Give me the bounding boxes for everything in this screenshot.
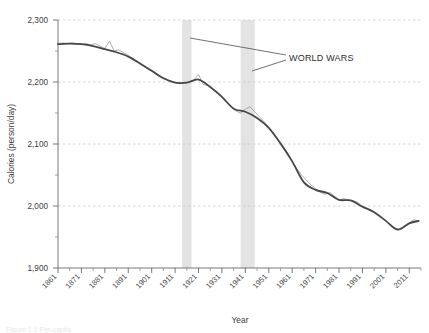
x-tick-label-1901: 1901 <box>134 272 152 290</box>
x-tick-label-1911: 1911 <box>158 272 176 290</box>
y-tick-label-2000: 2,000 <box>28 202 49 211</box>
x-tick-label-1981: 1981 <box>321 272 339 290</box>
x-tick-label-1861: 1861 <box>40 272 58 290</box>
y-axis-tick-labels: 1,9002,0002,1002,2002,300 <box>28 16 49 273</box>
y-axis-title: Calories (person/day) <box>6 104 16 184</box>
leader-line-ww2 <box>252 60 286 71</box>
x-tick-label-1941: 1941 <box>227 272 245 290</box>
x-axis-tick-labels: 1861187118811891190119111921193119411951… <box>40 272 410 290</box>
x-tick-label-1971: 1971 <box>298 272 316 290</box>
x-tick-label-2011: 2011 <box>392 272 410 290</box>
world-wars-annotation-label: WORLD WARS <box>289 53 354 63</box>
x-axis-title: Year <box>232 315 249 325</box>
x-tick-label-1881: 1881 <box>87 272 105 290</box>
series-line-smoothed-trend <box>58 44 419 230</box>
x-tick-label-1931: 1931 <box>204 272 222 290</box>
x-tick-label-2001: 2001 <box>368 272 386 290</box>
y-tick-label-2300: 2,300 <box>28 16 49 25</box>
x-tick-label-1891: 1891 <box>110 272 128 290</box>
world-wars-leader-lines <box>190 38 286 71</box>
y-tick-label-2100: 2,100 <box>28 140 49 149</box>
y-axis-major-ticks <box>53 20 58 268</box>
leader-line-ww1 <box>190 38 286 55</box>
x-tick-label-1871: 1871 <box>64 272 82 290</box>
y-tick-label-1900: 1,900 <box>28 264 49 273</box>
y-tick-label-2200: 2,200 <box>28 78 49 87</box>
x-tick-label-1991: 1991 <box>345 272 363 290</box>
cropped-caption: Figure 1.1 Per-capita <box>6 326 71 333</box>
x-tick-label-1921: 1921 <box>181 272 199 290</box>
x-tick-label-1961: 1961 <box>274 272 292 290</box>
shaded-band-world-war-2 <box>241 20 255 268</box>
series-line-annual <box>58 41 419 229</box>
x-tick-label-1951: 1951 <box>251 272 269 290</box>
